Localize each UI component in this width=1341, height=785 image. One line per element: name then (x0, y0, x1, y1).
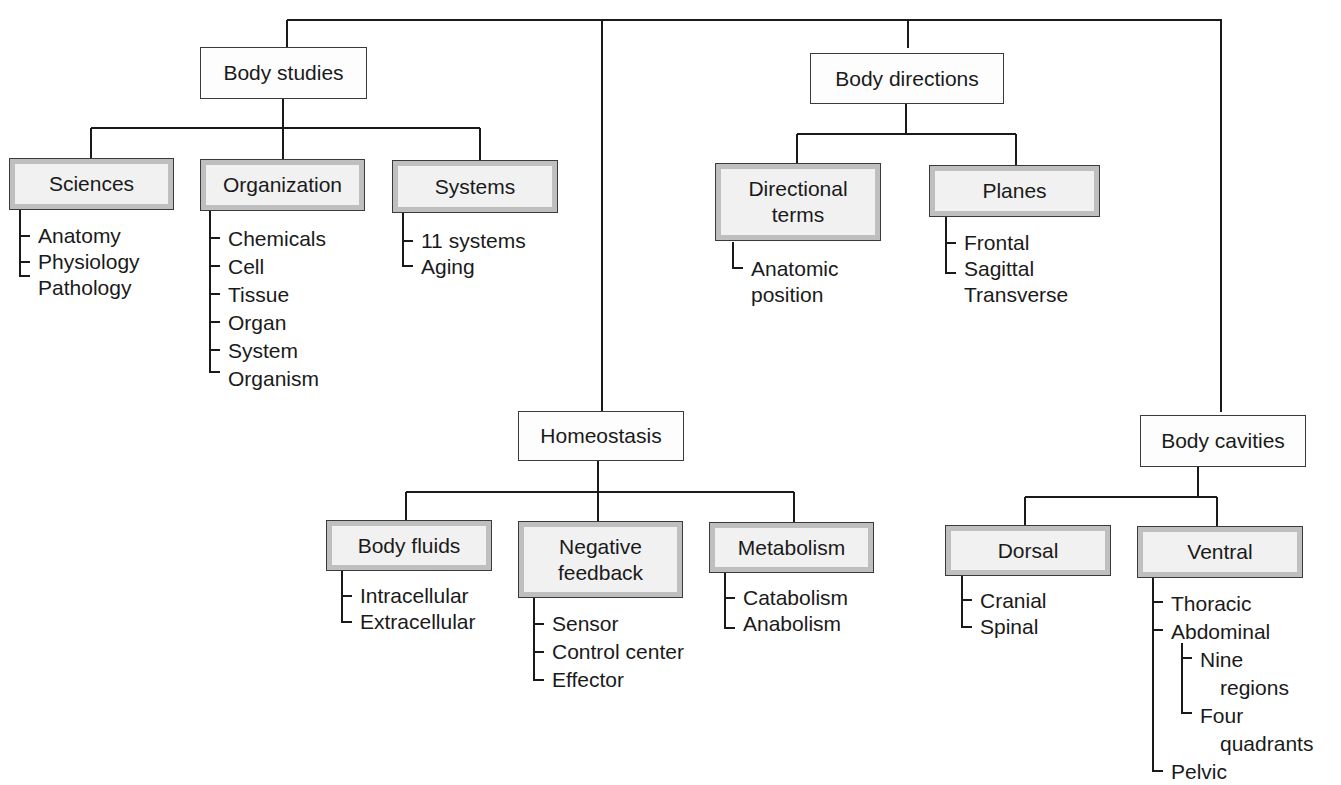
sub-list-item: Four (1153, 702, 1313, 730)
node-label: Organization (223, 172, 342, 198)
list-item: Tissue (210, 281, 326, 309)
sub-list-item: Nine (1153, 646, 1313, 674)
node-negative-feedback: Negative feedback (518, 521, 683, 598)
planes-list: Frontal Sagittal Transverse (946, 230, 1068, 308)
node-ventral: Ventral (1137, 526, 1303, 578)
list-item: Spinal (962, 614, 1047, 640)
body-fluids-list: Intracellular Extracellular (342, 583, 476, 635)
node-label: Body cavities (1161, 428, 1285, 454)
metabolism-list: Catabolism Anabolism (725, 585, 848, 637)
node-label-line: Negative (559, 534, 642, 560)
node-sciences: Sciences (9, 158, 174, 210)
list-item: Effector (534, 666, 684, 694)
ventral-list: Thoracic Abdominal Nine regions Four qua… (1153, 590, 1313, 785)
list-item: Intracellular (342, 583, 476, 609)
list-item: Transverse (946, 282, 1068, 308)
node-body-cavities: Body cavities (1140, 415, 1306, 467)
list-item: Pelvic (1153, 758, 1313, 785)
directional-terms-list: Anatomic position (733, 256, 839, 308)
list-item: Frontal (946, 230, 1068, 256)
node-label: Sciences (49, 171, 134, 197)
node-label: Systems (435, 174, 516, 200)
list-item: Chemicals (210, 225, 326, 253)
list-item: 11 systems (403, 228, 526, 254)
node-label-line: terms (772, 202, 825, 228)
list-item: Anabolism (725, 611, 848, 637)
sciences-list: Anatomy Physiology Pathology (20, 223, 140, 301)
list-item: System (210, 337, 326, 365)
sub-list-item-continuation: regions (1153, 674, 1313, 702)
node-label: Metabolism (738, 535, 845, 561)
node-planes: Planes (929, 165, 1100, 217)
list-item: Aging (403, 254, 526, 280)
node-label: Body directions (835, 66, 979, 92)
list-item: Sagittal (946, 256, 1068, 282)
node-label-line: Directional (748, 176, 847, 202)
list-item: Organ (210, 309, 326, 337)
node-metabolism: Metabolism (709, 522, 874, 573)
list-item: Control center (534, 638, 684, 666)
list-item: Pathology (20, 275, 140, 301)
list-item: Extracellular (342, 609, 476, 635)
list-item: Cranial (962, 588, 1047, 614)
node-label: Planes (982, 178, 1046, 204)
node-label: Body fluids (358, 533, 461, 559)
sub-list-item-continuation: quadrants (1153, 730, 1313, 758)
dorsal-list: Cranial Spinal (962, 588, 1047, 640)
node-label-line: feedback (558, 560, 643, 586)
negative-feedback-list: Sensor Control center Effector (534, 610, 684, 694)
list-item: Catabolism (725, 585, 848, 611)
node-label: Ventral (1187, 539, 1252, 565)
anatomy-concept-map: Body studies Body directions Homeostasis… (0, 0, 1341, 785)
list-item: Physiology (20, 249, 140, 275)
list-item: Anatomic (733, 256, 839, 282)
node-organization: Organization (200, 159, 365, 211)
node-body-fluids: Body fluids (326, 520, 492, 571)
node-body-directions: Body directions (810, 53, 1004, 104)
node-label: Homeostasis (540, 423, 661, 449)
node-systems: Systems (392, 160, 558, 213)
node-label: Body studies (223, 60, 343, 86)
list-item-continuation: position (733, 282, 839, 308)
systems-list: 11 systems Aging (403, 228, 526, 280)
node-body-studies: Body studies (200, 47, 367, 99)
organization-list: Chemicals Cell Tissue Organ System Organ… (210, 225, 326, 393)
list-item: Thoracic (1153, 590, 1313, 618)
list-item: Anatomy (20, 223, 140, 249)
list-item: Abdominal (1153, 618, 1313, 646)
list-item: Organism (210, 365, 326, 393)
node-dorsal: Dorsal (945, 525, 1111, 576)
list-item: Cell (210, 253, 326, 281)
list-item: Sensor (534, 610, 684, 638)
node-directional-terms: Directional terms (715, 163, 881, 241)
node-label: Dorsal (998, 538, 1059, 564)
node-homeostasis: Homeostasis (518, 411, 684, 461)
